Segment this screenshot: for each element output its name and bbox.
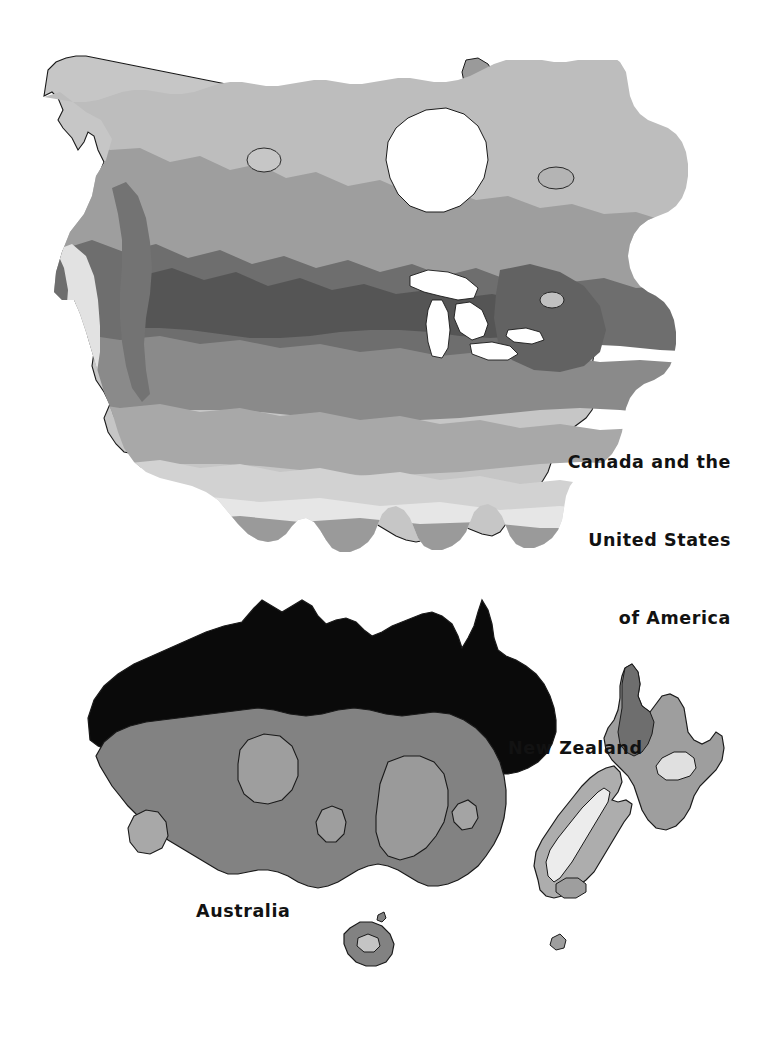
label-na-line-1: Canada and the: [568, 449, 731, 475]
na-island-light-1: [247, 148, 281, 172]
map-new-zealand: [534, 664, 724, 950]
figure-canvas: Canada and the United States of America …: [0, 0, 759, 1049]
nz-south-island-mid-patch: [556, 878, 586, 898]
au-patch-central: [238, 734, 298, 804]
label-canada-united-states: Canada and the United States of America: [568, 397, 731, 683]
tasmania-islet: [377, 912, 386, 922]
label-na-line-3: of America: [568, 605, 731, 631]
au-tasmania: [344, 912, 394, 966]
nz-stewart-island: [550, 934, 566, 950]
map-australia: [88, 600, 556, 966]
label-na-line-2: United States: [568, 527, 731, 553]
au-patch-west: [128, 810, 168, 854]
na-island-light-3: [540, 292, 564, 308]
label-australia: Australia: [196, 898, 290, 924]
label-new-zealand: New Zealand: [508, 735, 643, 761]
na-island-light-2: [538, 167, 574, 189]
